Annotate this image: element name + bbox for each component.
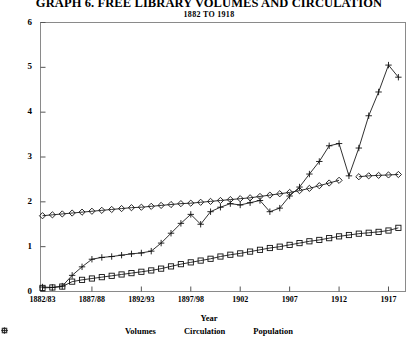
series-population	[39, 171, 401, 218]
y-axis-tick-label: 1	[14, 241, 32, 251]
diamond-marker	[0, 326, 9, 335]
y-axis-tick-label: 3	[14, 151, 32, 161]
diamond-marker	[2, 328, 8, 334]
x-axis-tick-label: 1917	[358, 295, 418, 304]
chart-plot-area	[0, 0, 418, 338]
legend-item: Circulation	[184, 326, 225, 336]
legend-label: Population	[253, 326, 293, 336]
x-axis-title: Year	[0, 313, 418, 323]
chart-page: GRAPH 6. FREE LIBRARY VOLUMES AND CIRCUL…	[0, 0, 418, 338]
y-axis-tick-label: 2	[14, 196, 32, 206]
y-axis-tick-label: 4	[14, 106, 32, 116]
legend-item: Volumes	[125, 326, 156, 336]
series-line	[43, 180, 340, 215]
plot-frame	[41, 23, 406, 292]
series-line	[43, 228, 399, 288]
chart-legend: VolumesCirculationPopulation	[0, 326, 418, 336]
legend-label: Volumes	[125, 326, 156, 336]
legend-marker-glyph	[2, 328, 8, 334]
y-axis-tick-label: 6	[14, 17, 32, 27]
legend-item: Population	[253, 326, 293, 336]
legend-label: Circulation	[184, 326, 225, 336]
series-line	[359, 174, 399, 176]
series-volumes	[40, 225, 401, 290]
diamond-marker	[336, 177, 342, 183]
y-axis-tick-label: 5	[14, 61, 32, 71]
y-axis-tick-label: 0	[14, 286, 32, 296]
